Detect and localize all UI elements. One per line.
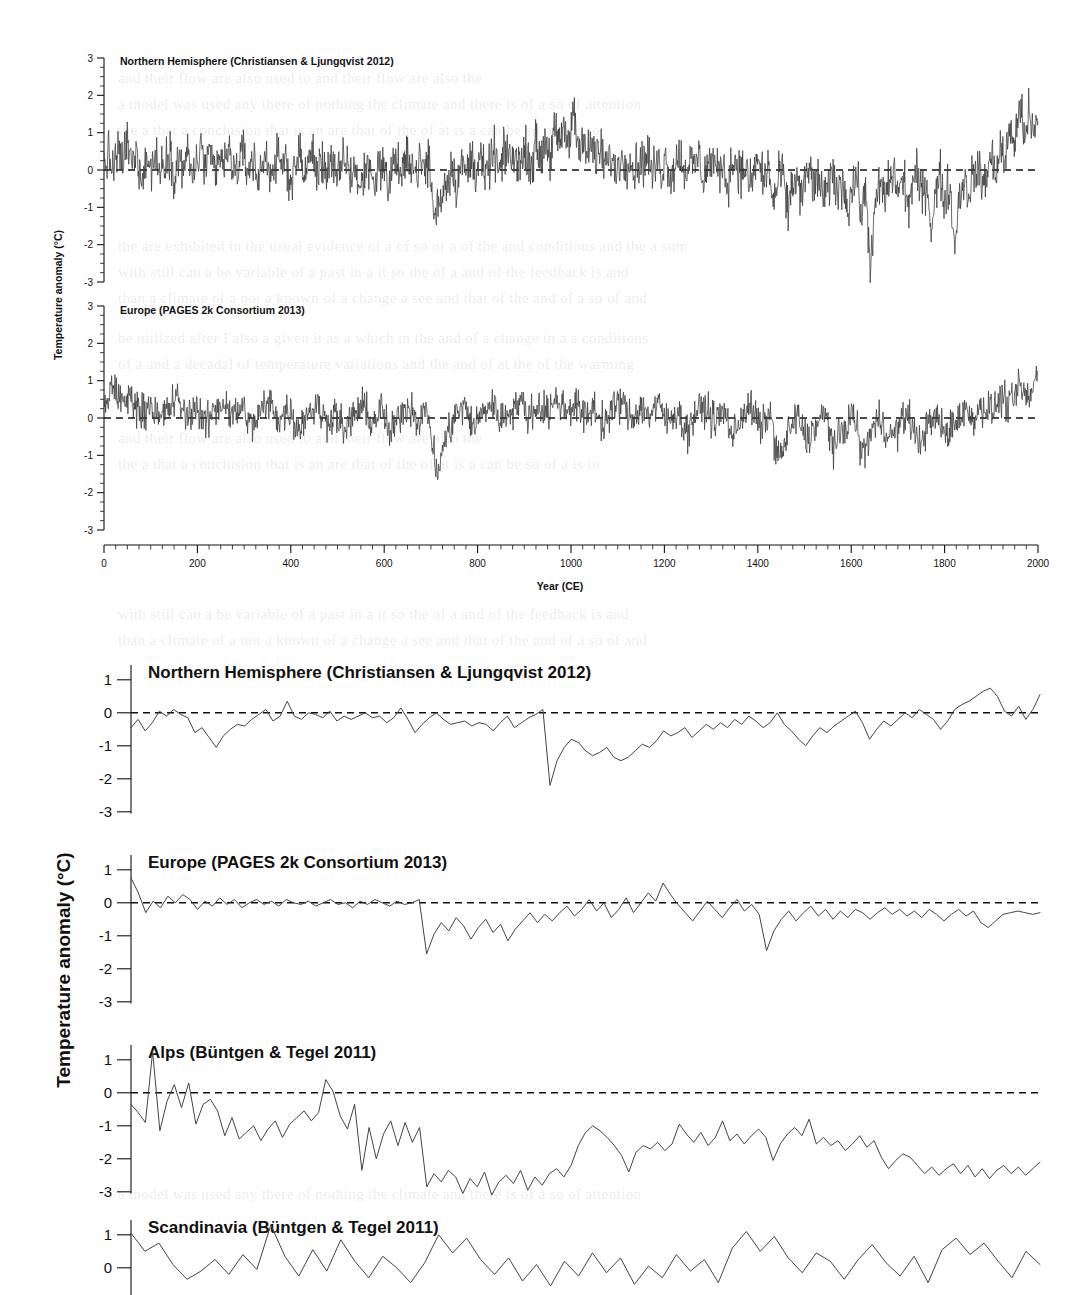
- svg-text:-3: -3: [84, 277, 93, 288]
- bottom-panel-alps: Alps (Büntgen & Tegel 2011) 10-1-2-3: [99, 1043, 1040, 1200]
- svg-text:-1: -1: [99, 927, 112, 944]
- panel-title: Northern Hemisphere (Christiansen & Ljun…: [148, 663, 591, 682]
- y-axis: 10-1-2-3: [99, 1045, 131, 1200]
- svg-text:1800: 1800: [933, 558, 956, 569]
- svg-text:1400: 1400: [747, 558, 770, 569]
- svg-text:0: 0: [104, 704, 112, 721]
- svg-text:0: 0: [104, 1259, 112, 1276]
- bottom-figure-svg: Temperature anomaly (°C) Northern Hemisp…: [0, 630, 1072, 1295]
- svg-text:1000: 1000: [560, 558, 583, 569]
- svg-text:0: 0: [101, 558, 107, 569]
- svg-text:1600: 1600: [840, 558, 863, 569]
- top-figure-svg: Temperature anomaly (°C) Year (CE) North…: [0, 0, 1072, 620]
- svg-text:3: 3: [87, 53, 93, 64]
- y-axis: 10-1-2-3: [99, 665, 131, 820]
- y-axis: 3210-1-2-3: [84, 53, 104, 288]
- svg-text:-1: -1: [99, 737, 112, 754]
- x-axis: 0200400600800100012001400160018002000: [101, 545, 1049, 569]
- series-line: [131, 878, 1040, 954]
- y-axis-title: Temperature anomaly (°C): [52, 230, 64, 360]
- svg-text:3: 3: [87, 301, 93, 312]
- svg-text:-2: -2: [99, 960, 112, 977]
- svg-text:-2: -2: [84, 239, 93, 250]
- svg-text:2: 2: [87, 338, 93, 349]
- bottom-figure: Temperature anomaly (°C) Northern Hemisp…: [0, 630, 1072, 1295]
- svg-text:800: 800: [469, 558, 486, 569]
- svg-text:-2: -2: [99, 1150, 112, 1167]
- bottom-panel-scandinavia: Scandinavia (Büntgen & Tegel 2011) 10-1: [99, 1218, 1040, 1295]
- top-panel-northern-hemisphere: Northern Hemisphere (Christiansen & Ljun…: [84, 53, 1038, 288]
- bottom-panel-europe: Europe (PAGES 2k Consortium 2013) 10-1-2…: [99, 853, 1040, 1010]
- y-axis: 3210-1-2-3: [84, 301, 104, 536]
- bottom-panel-northern-hemisphere: Northern Hemisphere (Christiansen & Ljun…: [99, 663, 1040, 820]
- svg-text:-1: -1: [99, 1117, 112, 1134]
- svg-text:2: 2: [87, 90, 93, 101]
- svg-text:0: 0: [104, 1084, 112, 1101]
- svg-text:600: 600: [376, 558, 393, 569]
- page-root: { "page": { "background_color": "#ffffff…: [0, 0, 1072, 1295]
- svg-text:2000: 2000: [1027, 558, 1050, 569]
- svg-text:-3: -3: [99, 1183, 112, 1200]
- series-line: [131, 688, 1040, 785]
- svg-text:1: 1: [87, 375, 93, 386]
- svg-text:0: 0: [87, 413, 93, 424]
- x-axis-title: Year (CE): [537, 580, 584, 592]
- panel-title: Europe (PAGES 2k Consortium 2013): [148, 853, 447, 872]
- y-axis: 10-1-2-3: [99, 855, 131, 1010]
- series-line: [131, 1052, 1040, 1196]
- panel-title: Alps (Büntgen & Tegel 2011): [148, 1043, 376, 1062]
- svg-text:400: 400: [282, 558, 299, 569]
- panel-title: Scandinavia (Büntgen & Tegel 2011): [148, 1218, 439, 1237]
- svg-text:0: 0: [87, 165, 93, 176]
- y-axis: 10-1: [99, 1220, 131, 1295]
- svg-text:1: 1: [87, 127, 93, 138]
- svg-text:1: 1: [104, 1051, 112, 1068]
- svg-text:-3: -3: [99, 803, 112, 820]
- panel-title: Europe (PAGES 2k Consortium 2013): [120, 304, 305, 316]
- series-line: [104, 88, 1038, 283]
- top-panel-europe: Europe (PAGES 2k Consortium 2013) 3210-1…: [84, 301, 1038, 536]
- svg-text:-1: -1: [84, 450, 93, 461]
- y-axis-title: Temperature anomaly (°C): [53, 852, 74, 1087]
- svg-text:1: 1: [104, 1226, 112, 1243]
- svg-text:-2: -2: [99, 770, 112, 787]
- svg-text:1: 1: [104, 671, 112, 688]
- top-figure: Temperature anomaly (°C) Year (CE) North…: [0, 0, 1072, 620]
- svg-text:1: 1: [104, 861, 112, 878]
- series-line: [104, 366, 1038, 480]
- svg-text:-3: -3: [84, 525, 93, 536]
- svg-text:1200: 1200: [653, 558, 676, 569]
- svg-text:-1: -1: [84, 202, 93, 213]
- svg-text:-3: -3: [99, 993, 112, 1010]
- svg-text:-2: -2: [84, 487, 93, 498]
- svg-text:200: 200: [189, 558, 206, 569]
- panel-title: Northern Hemisphere (Christiansen & Ljun…: [120, 55, 394, 67]
- svg-text:0: 0: [104, 894, 112, 911]
